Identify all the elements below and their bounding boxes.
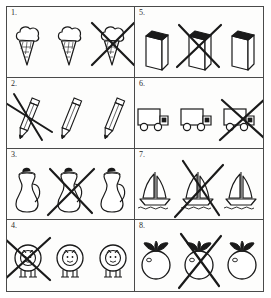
item-apple-2[interactable] — [180, 234, 218, 288]
pencil-icon — [52, 94, 88, 144]
apple-icon — [137, 238, 175, 284]
worksheet-cell-1[interactable]: 1. — [7, 7, 135, 78]
item-sailboat-1[interactable] — [137, 163, 175, 217]
item-pitcher-1[interactable] — [9, 163, 47, 217]
apple-icon — [180, 238, 218, 284]
worksheet-cell-7[interactable]: 7. — [135, 149, 263, 220]
truck-icon — [222, 103, 262, 135]
item-truck-3[interactable] — [223, 92, 261, 146]
item-row — [135, 18, 263, 77]
item-ice-cream-cone-3[interactable] — [94, 21, 132, 75]
ice-cream-cone-icon — [96, 23, 130, 73]
item-row — [7, 231, 134, 291]
item-pitcher-2[interactable] — [51, 163, 89, 217]
pencil-icon — [95, 94, 131, 144]
item-row — [7, 89, 134, 148]
item-truck-2[interactable] — [180, 92, 218, 146]
item-book-1[interactable] — [137, 21, 175, 75]
item-book-3[interactable] — [223, 21, 261, 75]
item-truck-1[interactable] — [137, 92, 175, 146]
item-row — [135, 89, 263, 148]
cell-number-label: 5. — [139, 8, 145, 18]
item-apple-3[interactable] — [223, 234, 261, 288]
worksheet-cell-6[interactable]: 6. — [135, 78, 263, 149]
sailboat-icon — [136, 166, 176, 214]
item-ice-cream-cone-2[interactable] — [51, 21, 89, 75]
cell-number-label: 8. — [139, 221, 145, 231]
cell-number-label: 1. — [11, 8, 17, 18]
pitcher-icon — [96, 164, 130, 216]
item-apple-1[interactable] — [137, 234, 175, 288]
sheep-icon — [95, 240, 131, 282]
pitcher-icon — [53, 164, 87, 216]
sailboat-icon — [179, 166, 219, 214]
sheep-icon — [10, 240, 46, 282]
book-icon — [183, 24, 215, 72]
ice-cream-cone-icon — [11, 23, 45, 73]
item-sheep-2[interactable] — [51, 234, 89, 288]
item-pitcher-3[interactable] — [94, 163, 132, 217]
truck-icon — [179, 103, 219, 135]
apple-icon — [223, 238, 261, 284]
ice-cream-cone-icon — [53, 23, 87, 73]
item-ice-cream-cone-1[interactable] — [9, 21, 47, 75]
item-sailboat-3[interactable] — [223, 163, 261, 217]
cell-number-label: 6. — [139, 79, 145, 89]
item-pencil-2[interactable] — [51, 92, 89, 146]
cell-number-label: 4. — [11, 221, 17, 231]
pencil-icon — [10, 94, 46, 144]
worksheet-cell-4[interactable]: 4. — [7, 220, 135, 291]
cell-number-label: 3. — [11, 150, 17, 160]
pitcher-icon — [11, 164, 45, 216]
book-icon — [226, 24, 258, 72]
worksheet-grid: 1. — [6, 6, 264, 292]
book-icon — [140, 24, 172, 72]
cell-number-label: 7. — [139, 150, 145, 160]
item-row — [7, 18, 134, 77]
sailboat-icon — [222, 166, 262, 214]
worksheet-cell-8[interactable]: 8. — [135, 220, 263, 291]
item-sheep-1[interactable] — [9, 234, 47, 288]
item-book-2[interactable] — [180, 21, 218, 75]
worksheet-cell-3[interactable]: 3. — [7, 149, 135, 220]
cell-number-label: 2. — [11, 79, 17, 89]
item-row — [7, 160, 134, 219]
item-sailboat-2[interactable] — [180, 163, 218, 217]
item-pencil-3[interactable] — [94, 92, 132, 146]
item-sheep-3[interactable] — [94, 234, 132, 288]
item-row — [135, 160, 263, 219]
sheep-icon — [52, 240, 88, 282]
worksheet-cell-5[interactable]: 5. — [135, 7, 263, 78]
item-pencil-1[interactable] — [9, 92, 47, 146]
truck-icon — [136, 103, 176, 135]
item-row — [135, 231, 263, 291]
worksheet-cell-2[interactable]: 2. — [7, 78, 135, 149]
